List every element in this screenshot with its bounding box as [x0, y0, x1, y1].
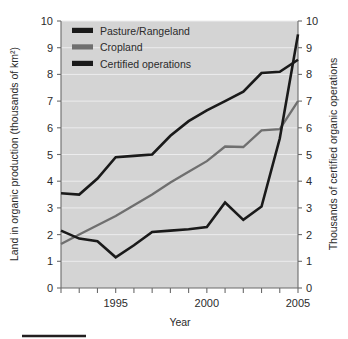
y-left-tick-label: 8 — [47, 68, 53, 80]
y-right-tick-label: 10 — [306, 15, 318, 27]
y-left-tick-label: 6 — [47, 122, 53, 134]
y-left-tick-label: 7 — [47, 95, 53, 107]
legend-swatch — [72, 28, 93, 33]
y-left-axis-title: Land in organic production (thousands of… — [8, 47, 20, 261]
y-right-tick-label: 9 — [306, 42, 312, 54]
y-left-tick-label: 4 — [47, 175, 53, 187]
y-left-tick-label: 1 — [47, 255, 53, 267]
y-left-tick-label: 10 — [41, 15, 53, 27]
organic-production-line-chart: 012345678910 012345678910 199520002005 L… — [0, 0, 348, 339]
y-left-tick-label: 0 — [47, 282, 53, 294]
y-right-tick-label: 1 — [306, 255, 312, 267]
legend-label: Pasture/Rangeland — [100, 25, 190, 37]
y-left-tick-label: 2 — [47, 229, 53, 241]
y-left-tick-label: 5 — [47, 149, 53, 161]
y-right-tick-label: 4 — [306, 175, 312, 187]
y-right-tick-label: 7 — [306, 95, 312, 107]
x-tick-label: 2000 — [195, 297, 219, 309]
x-axis-title: Year — [169, 316, 191, 328]
y-right-axis-title: Thousands of certified organic operation… — [327, 58, 339, 251]
y-left-tick-label: 9 — [47, 42, 53, 54]
y-right-tick-label: 8 — [306, 68, 312, 80]
figure-container: 012345678910 012345678910 199520002005 L… — [0, 0, 348, 339]
y-right-tick-label: 2 — [306, 229, 312, 241]
y-right-tick-label: 5 — [306, 149, 312, 161]
x-tick-label: 1995 — [103, 297, 127, 309]
legend-swatch — [72, 44, 93, 49]
legend-label: Certified operations — [100, 58, 191, 70]
legend-swatch — [72, 61, 93, 66]
y-right-tick-label: 0 — [306, 282, 312, 294]
y-right-tick-label: 6 — [306, 122, 312, 134]
x-tick-label: 2005 — [286, 297, 310, 309]
y-left-tick-label: 3 — [47, 202, 53, 214]
y-right-tick-label: 3 — [306, 202, 312, 214]
legend-label: Cropland — [100, 41, 143, 53]
